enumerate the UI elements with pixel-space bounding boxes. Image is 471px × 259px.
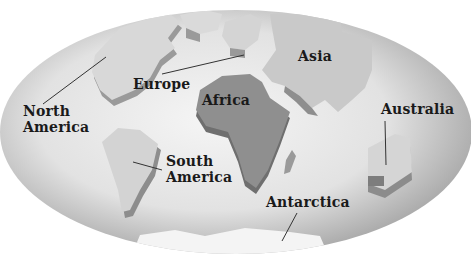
label-africa: Africa xyxy=(202,92,250,108)
label-asia: Asia xyxy=(298,48,332,64)
label-australia: Australia xyxy=(381,101,454,117)
label-south-america-line1: South xyxy=(166,153,232,169)
label-south-america: South America xyxy=(166,153,232,185)
label-north-america-line1: North xyxy=(23,103,89,119)
label-south-america-line2: America xyxy=(166,169,232,185)
label-antarctica: Antarctica xyxy=(266,194,350,210)
label-north-america: North America xyxy=(23,103,89,135)
label-europe: Europe xyxy=(133,76,190,92)
label-north-america-line2: America xyxy=(23,119,89,135)
